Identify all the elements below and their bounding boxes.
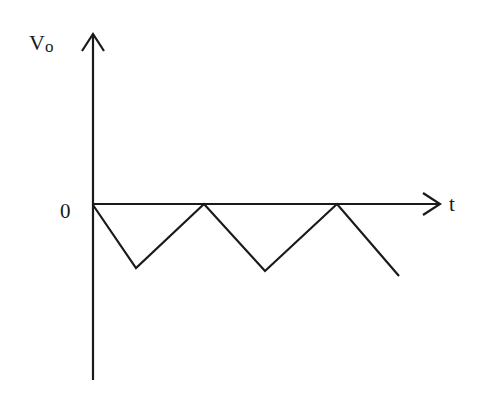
waveform-diagram: Vo 0 t bbox=[0, 0, 480, 406]
triangle-waveform bbox=[93, 204, 399, 276]
origin-label: 0 bbox=[60, 199, 71, 223]
x-axis-label: t bbox=[449, 192, 455, 216]
y-axis-label: Vo bbox=[29, 30, 53, 56]
